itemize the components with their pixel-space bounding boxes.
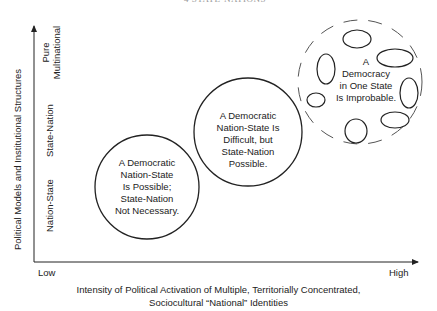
- y-axis-title: Political Models and Institutional Struc…: [12, 69, 23, 250]
- y-tick-multinational: Multinational: [51, 15, 62, 90]
- nation-ellipse: [345, 119, 367, 143]
- circle-3-line: Democracy: [328, 68, 404, 80]
- circle-3-line: A: [328, 56, 404, 68]
- y-tick-nation-state: Nation-State: [44, 179, 55, 232]
- nation-ellipse: [381, 112, 409, 128]
- circle-1-line: Is Possible;: [95, 181, 199, 193]
- circle-3-line: Is Improbable.: [328, 92, 404, 104]
- x-axis-low: Low: [38, 267, 55, 278]
- nation-ellipse: [343, 30, 371, 48]
- circle-1-line: Nation-State: [95, 169, 199, 181]
- circle-2-line: Possible.: [196, 158, 300, 170]
- circle-2-text: A Democratic Nation-State Is Difficult, …: [196, 110, 300, 170]
- circle-2-line: Difficult, but: [196, 134, 300, 146]
- y-tick-multinational-word: Multinational: [51, 15, 62, 90]
- circle-1-text: A Democratic Nation-State Is Possible; S…: [95, 157, 199, 217]
- x-axis-title-line2: Sociocultural “National” Identities: [0, 296, 437, 309]
- nation-ellipse: [307, 93, 325, 107]
- circle-2-line: State-Nation: [196, 146, 300, 158]
- circle-1-line: Not Necessary.: [95, 205, 199, 217]
- circle-2-line: Nation-State Is: [196, 122, 300, 134]
- circle-2-line: A Democratic: [196, 110, 300, 122]
- y-tick-state-nation: State-Nation: [44, 104, 55, 157]
- y-tick-pure: Pure: [40, 15, 51, 90]
- x-axis-title-line1: Intensity of Political Activation of Mul…: [0, 283, 437, 296]
- circle-1-line: A Democratic: [95, 157, 199, 169]
- circle-3-text: A Democracy in One State Is Improbable.: [328, 56, 404, 104]
- y-tick-pure-multinational: Pure: [40, 15, 51, 90]
- circle-3-line: in One State: [328, 80, 404, 92]
- x-axis-title: Intensity of Political Activation of Mul…: [0, 283, 437, 309]
- circle-1-line: State-Nation: [95, 193, 199, 205]
- x-axis-high: High: [389, 267, 409, 278]
